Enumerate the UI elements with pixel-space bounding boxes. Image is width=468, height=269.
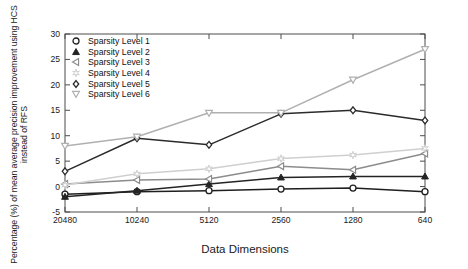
- data-point-circle-icon: [73, 38, 79, 44]
- legend-triangle-left-icon: [68, 57, 84, 67]
- data-point-triangle-left-icon: [206, 176, 212, 183]
- data-point-triangle-down-icon: [73, 92, 80, 98]
- legend-triangle-up-icon: [68, 47, 84, 57]
- data-point-diamond-icon: [206, 141, 211, 148]
- data-point-diamond-icon: [73, 80, 78, 87]
- series-1: [62, 185, 428, 197]
- chart-figure: Percentage (%) of mean average precision…: [0, 0, 468, 269]
- x-axis-title: Data Dimensions: [65, 243, 425, 255]
- data-point-triangle-left-icon: [73, 59, 79, 66]
- legend-star-icon: [68, 68, 84, 78]
- legend-label: Sparsity Level 5: [88, 79, 150, 89]
- legend-triangle-down-icon: [68, 89, 84, 99]
- data-point-diamond-icon: [350, 107, 355, 114]
- legend-item-1[interactable]: Sparsity Level 1: [68, 36, 150, 47]
- legend-circle-icon: [68, 36, 84, 46]
- data-point-triangle-left-icon: [350, 166, 356, 173]
- data-point-triangle-down-icon: [62, 143, 69, 149]
- data-point-diamond-icon: [422, 117, 427, 124]
- legend-label: Sparsity Level 2: [88, 47, 150, 57]
- series-3: [62, 150, 428, 187]
- legend-item-4[interactable]: Sparsity Level 4: [68, 68, 150, 79]
- legend-item-5[interactable]: Sparsity Level 5: [68, 78, 150, 89]
- data-point-diamond-icon: [62, 168, 67, 175]
- data-point-triangle-down-icon: [206, 110, 213, 116]
- data-point-triangle-left-icon: [278, 163, 284, 170]
- legend-label: Sparsity Level 3: [88, 57, 150, 67]
- legend-label: Sparsity Level 6: [88, 89, 150, 99]
- legend-label: Sparsity Level 4: [88, 68, 150, 78]
- legend-item-6[interactable]: Sparsity Level 6: [68, 89, 150, 100]
- legend-diamond-icon: [68, 79, 84, 89]
- data-point-triangle-down-icon: [422, 47, 429, 53]
- legend-label: Sparsity Level 1: [88, 36, 150, 46]
- series-4: [62, 145, 429, 189]
- data-point-circle-icon: [422, 189, 428, 195]
- data-point-circle-icon: [206, 188, 212, 194]
- legend-item-3[interactable]: Sparsity Level 3: [68, 57, 150, 68]
- data-point-triangle-down-icon: [350, 77, 357, 83]
- data-point-triangle-up-icon: [73, 48, 80, 54]
- data-point-circle-icon: [350, 185, 356, 191]
- legend-item-2[interactable]: Sparsity Level 2: [68, 47, 150, 58]
- chart-legend: Sparsity Level 1Sparsity Level 2Sparsity…: [68, 36, 150, 100]
- data-point-circle-icon: [278, 186, 284, 192]
- data-point-star-icon: [73, 69, 80, 77]
